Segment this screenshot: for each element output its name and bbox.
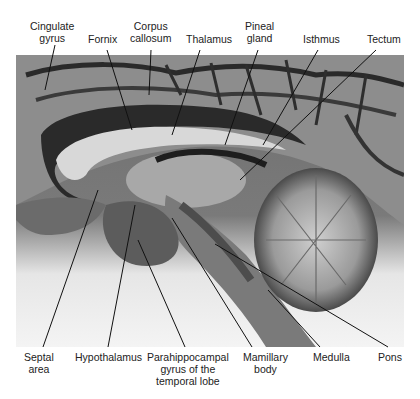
leader-parahippocampal xyxy=(138,240,185,347)
leader-medulla xyxy=(268,290,320,347)
label-medulla: Medulla xyxy=(313,351,350,363)
label-tectum: Tectum xyxy=(367,33,401,45)
leader-lines xyxy=(0,0,420,399)
label-septal-area: Septal area xyxy=(24,351,54,375)
leader-pineal-gland xyxy=(225,50,258,145)
leader-mamillary-body xyxy=(172,218,252,347)
leader-thalamus xyxy=(172,50,200,135)
label-cingulate-gyrus: Cingulate gyrus xyxy=(30,20,74,44)
leader-corpus-callosum xyxy=(149,50,151,95)
label-pons: Pons xyxy=(378,351,402,363)
leader-isthmus xyxy=(263,50,318,145)
label-corpus-callosum: Corpus callosum xyxy=(130,20,171,44)
label-parahippocampal-gyrus: Parahippocampal gyrus of the temporal lo… xyxy=(147,351,229,387)
leader-pons xyxy=(215,244,388,347)
leader-fornix xyxy=(107,50,132,130)
leader-cingulate-gyrus xyxy=(45,45,55,90)
leader-hypothalamus xyxy=(108,205,135,347)
leader-septal-area xyxy=(43,190,98,347)
label-thalamus: Thalamus xyxy=(186,33,232,45)
label-mamillary-body: Mamillary body xyxy=(243,351,288,375)
label-isthmus: Isthmus xyxy=(303,33,340,45)
label-fornix: Fornix xyxy=(88,33,117,45)
label-pineal-gland: Pineal gland xyxy=(245,20,274,44)
leader-tectum xyxy=(240,50,376,180)
label-hypothalamus: Hypothalamus xyxy=(75,351,142,363)
brain-sagittal-figure: Cingulate gyrus Fornix Corpus callosum T… xyxy=(0,0,420,399)
